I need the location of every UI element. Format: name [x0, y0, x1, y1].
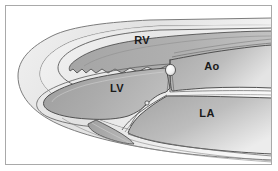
aortic-valve-mass	[166, 64, 176, 75]
figure-root: RV Ao LV LA	[0, 0, 278, 171]
mitral-annulus-point	[145, 101, 149, 105]
label-la: LA	[199, 107, 214, 119]
label-lv: LV	[110, 82, 124, 94]
cardiac-diagram: RV Ao LV LA	[0, 0, 278, 171]
label-ao: Ao	[204, 60, 219, 72]
label-rv: RV	[134, 34, 150, 46]
